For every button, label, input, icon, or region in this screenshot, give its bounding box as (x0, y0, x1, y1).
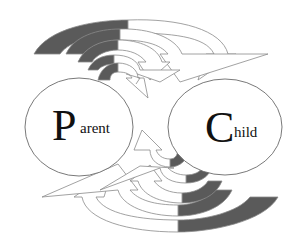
child-label-rest: hild (234, 124, 258, 140)
parent-initial: P (52, 101, 76, 150)
child-initial: C (205, 103, 234, 152)
child-node[interactable]: C hild (168, 79, 282, 175)
parent-label-rest: arent (80, 120, 111, 136)
parent-child-diagram: P arent C hild (0, 0, 299, 246)
parent-node[interactable]: P arent (25, 78, 133, 176)
